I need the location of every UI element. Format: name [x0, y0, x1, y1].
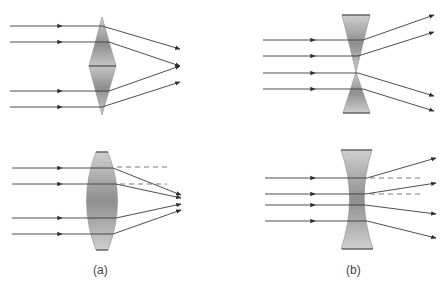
- diverging-prism-pair: [342, 15, 370, 113]
- concave-lens: [341, 150, 373, 249]
- convex-lens: [87, 152, 118, 250]
- panel-b-label: (b): [346, 263, 361, 277]
- lens-diagram: [0, 0, 446, 283]
- converging-prism-pair: [89, 17, 116, 115]
- convex-lens-dashed-guides: [117, 167, 167, 184]
- panel-a-label: (a): [93, 263, 108, 277]
